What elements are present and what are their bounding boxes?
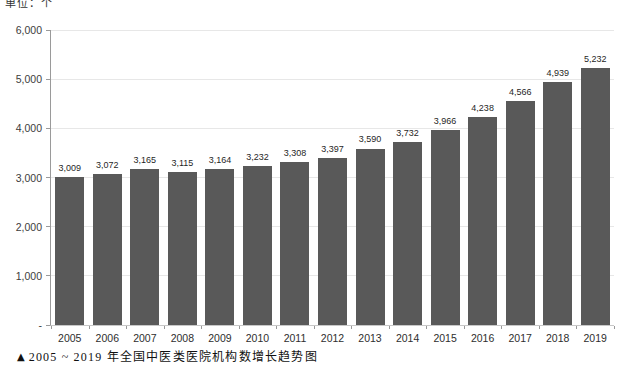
x-axis-label: 2006	[89, 332, 127, 344]
x-axis-tick	[51, 326, 52, 329]
y-axis-label: 1,000	[0, 270, 42, 282]
bar	[130, 169, 159, 325]
x-axis-tick	[126, 326, 127, 329]
y-axis-tick	[46, 30, 50, 31]
y-axis-label: -	[0, 319, 42, 331]
x-axis-label: 2008	[164, 332, 202, 344]
x-axis-tick	[351, 326, 352, 329]
x-axis-label: 2009	[201, 332, 239, 344]
x-axis-label: 2007	[126, 332, 164, 344]
x-axis-tick	[89, 326, 90, 329]
x-axis-label: 2015	[426, 332, 464, 344]
x-axis-label: 2017	[501, 332, 539, 344]
x-axis-label: 2013	[351, 332, 389, 344]
bar-value-label: 3,115	[164, 158, 202, 168]
bar	[356, 149, 385, 326]
bar	[280, 162, 309, 325]
x-axis-tick	[389, 326, 390, 329]
bar	[543, 82, 572, 325]
bar	[93, 174, 122, 325]
x-axis-tick	[201, 326, 202, 329]
bar-value-label: 3,009	[51, 163, 89, 173]
y-axis-tick	[46, 325, 50, 326]
bar-value-label: 5,232	[576, 54, 614, 64]
x-axis-label: 2012	[314, 332, 352, 344]
bar-value-label: 3,966	[426, 116, 464, 126]
x-axis-tick	[276, 326, 277, 329]
x-axis-tick	[576, 326, 577, 329]
bar	[55, 177, 84, 325]
y-axis-label: 6,000	[0, 24, 42, 36]
bar	[168, 172, 197, 325]
caption-text: 2005 ~ 2019 年全国中医类医院机构数增长趋势图	[29, 350, 318, 364]
x-axis-label: 2011	[276, 332, 314, 344]
y-axis-label: 3,000	[0, 172, 42, 184]
bar-value-label: 3,232	[239, 152, 277, 162]
bar-value-label: 4,238	[464, 103, 502, 113]
x-axis-tick	[464, 326, 465, 329]
bar-value-label: 3,308	[276, 148, 314, 158]
x-axis-label: 2005	[51, 332, 89, 344]
bar-value-label: 4,566	[501, 87, 539, 97]
bar	[243, 166, 272, 325]
y-axis-tick	[46, 79, 50, 80]
x-axis-tick	[164, 326, 165, 329]
gridline	[51, 79, 614, 80]
bar-value-label: 3,590	[351, 134, 389, 144]
bar	[318, 158, 347, 325]
x-axis-tick	[501, 326, 502, 329]
x-axis-label: 2019	[576, 332, 614, 344]
bar-value-label: 3,072	[89, 160, 127, 170]
bar	[431, 130, 460, 325]
bar-value-label: 4,939	[539, 68, 577, 78]
x-axis-tick	[426, 326, 427, 329]
plot-area: 6,0005,0004,0003,0002,0001,000-3,0092005…	[50, 30, 614, 326]
y-axis-tick	[46, 275, 50, 276]
x-axis-tick	[314, 326, 315, 329]
y-axis-label: 2,000	[0, 221, 42, 233]
bar	[581, 68, 610, 325]
bar	[205, 169, 234, 325]
bar-value-label: 3,397	[314, 144, 352, 154]
x-axis-label: 2010	[239, 332, 277, 344]
axis-unit-label: 单位：个	[5, 0, 53, 10]
bar	[468, 117, 497, 325]
bar-chart-figure: 单位：个 6,0005,0004,0003,0002,0001,000-3,00…	[0, 0, 622, 369]
y-axis-tick	[46, 226, 50, 227]
x-axis-tick	[614, 326, 615, 329]
x-axis-label: 2016	[464, 332, 502, 344]
bar	[393, 142, 422, 325]
y-axis-label: 4,000	[0, 122, 42, 134]
y-axis-label: 5,000	[0, 73, 42, 85]
caption-triangle-icon: ▲	[17, 351, 25, 362]
x-axis-tick	[239, 326, 240, 329]
y-axis-tick	[46, 177, 50, 178]
bar	[506, 101, 535, 325]
figure-caption: ▲2005 ~ 2019 年全国中医类医院机构数增长趋势图	[17, 347, 318, 365]
bar-value-label: 3,732	[389, 128, 427, 138]
bar-value-label: 3,165	[126, 155, 164, 165]
x-axis-label: 2018	[539, 332, 577, 344]
x-axis-tick	[539, 326, 540, 329]
y-axis-tick	[46, 128, 50, 129]
bar-value-label: 3,164	[201, 155, 239, 165]
x-axis-label: 2014	[389, 332, 427, 344]
gridline	[51, 30, 614, 31]
